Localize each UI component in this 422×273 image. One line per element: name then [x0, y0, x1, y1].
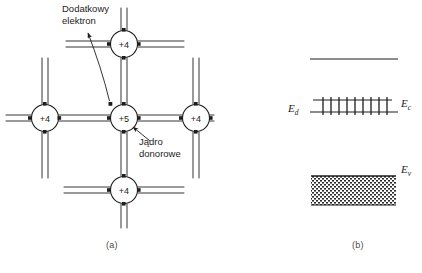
extra-electron-leader	[88, 33, 110, 101]
electron-dot	[137, 42, 141, 46]
electron-dot	[107, 42, 111, 46]
electron-dot	[58, 116, 62, 120]
extra-electron-line2: elektron	[62, 15, 109, 27]
electron-dot	[122, 56, 126, 60]
conduction-band-label-text: E	[401, 97, 408, 109]
conduction-band-label-sub: c	[408, 103, 411, 112]
atom-labels: +4 +4 +5 +4 +4	[40, 40, 201, 196]
atom-center-label: +5	[119, 114, 129, 124]
electron-dot	[122, 130, 126, 134]
electron-dot	[209, 116, 213, 120]
electron-dot	[137, 188, 141, 192]
donor-level-label-sub: d	[295, 108, 299, 117]
electron-dot	[107, 188, 111, 192]
atom-right-label: +4	[191, 114, 201, 124]
donor-nucleus-annotation: Jądro donorowe	[139, 136, 181, 159]
electron-dot	[122, 174, 126, 178]
donor-nucleus-line2: donorowe	[139, 148, 181, 160]
atom-bottom-label: +4	[119, 186, 129, 196]
valence-band-label-text: E	[401, 163, 408, 175]
panel-a-caption: (a)	[106, 240, 118, 250]
electron-dot	[43, 102, 47, 106]
electron-dot	[107, 116, 111, 120]
electron-dot	[28, 116, 32, 120]
atom-top-label: +4	[119, 40, 129, 50]
electron-dot	[194, 102, 198, 106]
valence-band-label: Ev	[401, 163, 411, 178]
donor-level-label: Ed	[288, 102, 298, 117]
valence-band-label-sub: v	[408, 169, 411, 178]
electron-dot	[122, 202, 126, 206]
panel-b-caption: (b)	[352, 240, 364, 250]
donor-nucleus-line1: Jądro	[139, 136, 181, 148]
donor-level-label-text: E	[288, 102, 295, 114]
electron-dot	[194, 130, 198, 134]
electron-dot	[137, 116, 141, 120]
extra-electron-line1: Dodatkowy	[62, 3, 109, 15]
conduction-band-label: Ec	[401, 97, 411, 112]
lattice-panel: +4 +4 +5 +4 +4	[6, 8, 214, 228]
extra-electron-dot	[109, 102, 113, 106]
electron-dot	[43, 130, 47, 134]
figure-container: +4 +4 +5 +4 +4	[0, 0, 422, 273]
extra-electron-annotation: Dodatkowy elektron	[62, 3, 109, 26]
electron-dot	[122, 102, 126, 106]
atom-left-label: +4	[40, 114, 50, 124]
figure-drawing: +4 +4 +5 +4 +4	[0, 0, 422, 273]
valence-band-fill	[311, 176, 396, 205]
electron-dot	[122, 28, 126, 32]
electron-dot	[179, 116, 183, 120]
band-diagram-panel	[310, 59, 398, 205]
